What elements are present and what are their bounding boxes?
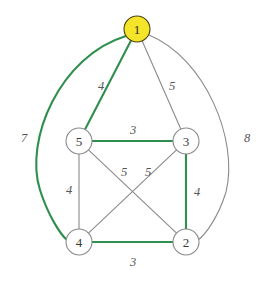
edge-weight-label: 8 — [244, 131, 251, 145]
edge-weight-label: 3 — [129, 255, 136, 269]
graph-node-5[interactable]: 5 — [66, 128, 92, 154]
node-label: 4 — [76, 235, 83, 250]
edges-layer — [36, 35, 229, 242]
edge-weight-label: 5 — [145, 165, 151, 179]
graph-node-2[interactable]: 2 — [173, 229, 199, 255]
node-label: 2 — [183, 235, 190, 250]
edge-weight-label: 4 — [194, 185, 200, 199]
edge-weight-label: 3 — [129, 123, 136, 137]
graph-node-1[interactable]: 1 — [124, 16, 150, 42]
node-label: 3 — [183, 134, 190, 149]
edge-weight-label: 7 — [21, 131, 28, 145]
node-label: 5 — [76, 134, 83, 149]
node-label: 1 — [134, 22, 141, 37]
edge-weight-label: 4 — [66, 183, 72, 197]
graph-diagram-figure: 15342 4578345543 — [0, 0, 273, 281]
edge-weight-label: 5 — [121, 165, 127, 179]
edge-weight-label: 4 — [98, 79, 104, 93]
edge-weight-label: 5 — [169, 79, 175, 93]
graph-node-4[interactable]: 4 — [66, 229, 92, 255]
graph-canvas: 15342 4578345543 — [0, 0, 273, 281]
graph-node-3[interactable]: 3 — [173, 128, 199, 154]
edge-weight-labels-layer: 4578345543 — [21, 79, 251, 269]
